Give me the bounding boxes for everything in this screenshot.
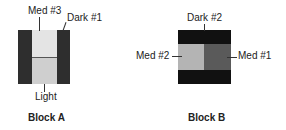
caption-block-b: Block B [188,113,225,123]
leader-med-3 [39,17,40,31]
med-2-patch [178,44,204,70]
leader-med-2 [172,56,182,57]
label-med-2: Med #2 [136,51,169,61]
label-dark-2: Dark #2 [187,13,222,23]
block-b-square [178,30,231,84]
label-light: Light [35,92,57,102]
dark-2-bottom-strip [178,70,231,84]
dark-1-right-strip [57,30,70,84]
leader-dark-2 [204,24,205,31]
leader-med-1 [227,57,237,58]
label-med-1: Med #1 [238,51,271,61]
caption-block-a: Block A [28,113,65,123]
med-3-patch [32,30,57,57]
leader-light [44,84,45,92]
light-patch [32,57,57,84]
dark-1-left-strip [18,30,32,84]
label-dark-1: Dark #1 [67,13,102,23]
dark-2-top-strip [178,30,231,44]
block-a-square [18,30,70,84]
label-med-3: Med #3 [28,6,61,16]
